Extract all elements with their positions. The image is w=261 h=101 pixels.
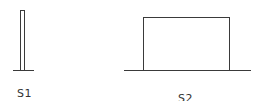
s2-pulse-rect	[143, 17, 230, 71]
diagram-canvas: S1 S2	[0, 0, 261, 101]
s2-label: S2	[178, 93, 193, 101]
s1-pulse-rect	[20, 10, 25, 71]
s1-label: S1	[17, 88, 32, 100]
